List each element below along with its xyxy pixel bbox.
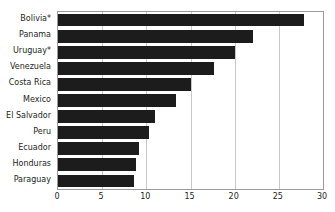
bar[interactable] <box>58 175 134 188</box>
x-axis-tick-label: 20 <box>229 192 239 202</box>
bar-row <box>58 110 323 123</box>
x-axis-tick-label: 15 <box>184 192 194 202</box>
bar-row <box>58 142 323 155</box>
y-axis-label: Ecuador <box>18 143 51 152</box>
bar[interactable] <box>58 62 214 75</box>
bar[interactable] <box>58 30 253 43</box>
x-axis-tick-labels: 051015202530 <box>0 192 335 206</box>
bars-layer <box>58 12 323 189</box>
bar-row <box>58 94 323 107</box>
bar-row <box>58 46 323 59</box>
bar-row <box>58 14 323 27</box>
y-axis-label: Venezuela <box>10 62 51 71</box>
bar[interactable] <box>58 78 191 91</box>
bar-row <box>58 62 323 75</box>
bar-row <box>58 30 323 43</box>
y-axis-category-labels: Bolivia*PanamaUruguay*VenezuelaCosta Ric… <box>0 11 54 188</box>
x-axis-tick-label: 5 <box>99 192 104 202</box>
plot-area <box>57 11 324 190</box>
bar[interactable] <box>58 14 304 27</box>
bar-row <box>58 158 323 171</box>
bar[interactable] <box>58 94 176 107</box>
bar-chart: Bolivia*PanamaUruguay*VenezuelaCosta Ric… <box>0 0 335 212</box>
bar-row <box>58 126 323 139</box>
bar[interactable] <box>58 110 155 123</box>
bar-row <box>58 78 323 91</box>
y-axis-label: Paraguay <box>14 175 51 184</box>
y-axis-label: Honduras <box>13 159 52 168</box>
x-axis-tick-label: 25 <box>273 192 283 202</box>
y-axis-label: Mexico <box>23 95 51 104</box>
bar-row <box>58 175 323 188</box>
x-axis-tick-label: 10 <box>140 192 150 202</box>
y-axis-label: Uruguay* <box>13 46 51 55</box>
chart-title <box>0 0 335 2</box>
y-axis-label: Costa Rica <box>9 78 51 87</box>
bar[interactable] <box>58 142 139 155</box>
bar[interactable] <box>58 158 136 171</box>
x-axis-tick-label: 30 <box>317 192 327 202</box>
x-axis-tick-label: 0 <box>54 192 59 202</box>
y-axis-label: El Salvador <box>6 111 51 120</box>
bar[interactable] <box>58 126 149 139</box>
y-axis-label: Panama <box>19 30 51 39</box>
y-axis-label: Peru <box>33 127 51 136</box>
bar[interactable] <box>58 46 235 59</box>
y-axis-label: Bolivia* <box>20 14 51 23</box>
